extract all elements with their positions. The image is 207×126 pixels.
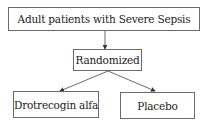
node-treatment: Drotrecogin alfa [13,91,99,118]
node-population: Adult patients with Severe Sepsis [8,7,200,31]
arrow-randomized-to-control [108,71,155,91]
arrow-randomized-to-treatment [60,71,108,91]
node-randomized: Randomized [73,49,142,71]
node-population-label: Adult patients with Severe Sepsis [18,13,191,25]
node-randomized-label: Randomized [76,54,140,66]
node-treatment-label: Drotrecogin alfa [14,99,98,111]
node-control: Placebo [120,92,195,119]
node-control-label: Placebo [137,100,177,112]
